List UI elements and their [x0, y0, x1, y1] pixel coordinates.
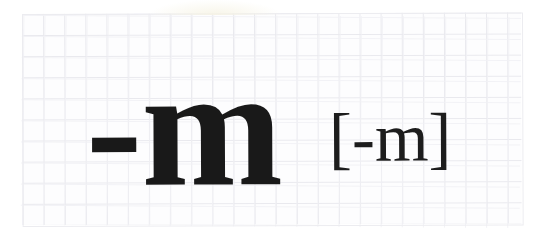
primary-glyph-text: -m [85, 42, 282, 213]
scanned-image-canvas: -m [-m] [0, 0, 542, 243]
bracketed-glyph-text: [-m] [329, 104, 452, 173]
